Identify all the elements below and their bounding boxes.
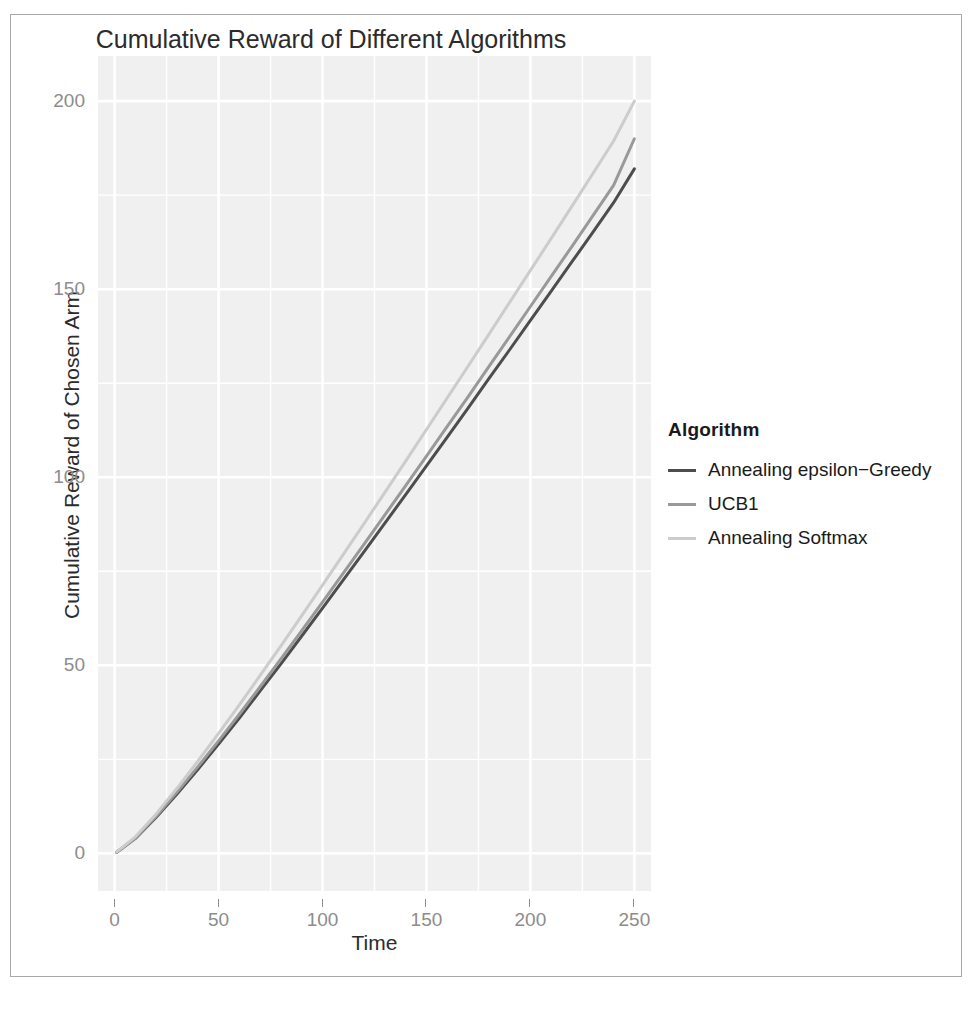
x-tick-mark: [425, 899, 426, 907]
legend-item[interactable]: UCB1: [668, 487, 948, 521]
y-tick: 200: [25, 91, 85, 110]
y-axis-title: Cumulative Reward of Chosen Arm: [60, 55, 84, 855]
x-tick-label: 100: [293, 909, 353, 931]
y-tick: 150: [25, 279, 85, 298]
legend: Algorithm Annealing epsilon−GreedyUCB1An…: [668, 419, 948, 555]
x-tick-mark: [322, 899, 323, 907]
x-tick-label: 0: [85, 909, 145, 931]
x-axis-title: Time: [98, 931, 651, 955]
legend-item-label: Annealing epsilon−Greedy: [708, 459, 931, 481]
y-tick: 50: [25, 655, 85, 674]
legend-items: Annealing epsilon−GreedyUCB1Annealing So…: [668, 453, 948, 555]
x-tick: 0: [85, 899, 145, 923]
y-tick-label: 200: [25, 91, 85, 110]
plot-panel: [98, 56, 651, 891]
legend-line-icon: [668, 487, 696, 521]
gridlines-minor: [98, 56, 651, 891]
legend-item[interactable]: Annealing epsilon−Greedy: [668, 453, 948, 487]
series-line: [117, 139, 635, 853]
y-tick-label: 0: [25, 843, 85, 862]
legend-item[interactable]: Annealing Softmax: [668, 521, 948, 555]
x-tick: 50: [189, 899, 249, 923]
y-tick: 100: [25, 467, 85, 486]
legend-title: Algorithm: [668, 419, 948, 441]
x-tick: 150: [396, 899, 456, 923]
legend-line-icon: [668, 453, 696, 487]
y-tick-label: 150: [25, 279, 85, 298]
legend-item-label: Annealing Softmax: [708, 527, 868, 549]
series-canvas: [98, 56, 651, 891]
x-tick-mark: [114, 899, 115, 907]
x-tick-mark: [218, 899, 219, 907]
x-tick-label: 200: [500, 909, 560, 931]
legend-line-icon: [668, 521, 696, 555]
x-tick: 100: [293, 899, 353, 923]
x-tick-label: 50: [189, 909, 249, 931]
figure-frame: Cumulative Reward of Different Algorithm…: [10, 14, 962, 977]
y-tick: 0: [25, 843, 85, 862]
plot-area: Cumulative Reward of Different Algorithm…: [11, 15, 961, 976]
chart-title: Cumulative Reward of Different Algorithm…: [11, 25, 651, 54]
x-tick-label: 250: [604, 909, 664, 931]
x-tick: 200: [500, 899, 560, 923]
legend-item-label: UCB1: [708, 493, 759, 515]
x-tick: 250: [604, 899, 664, 923]
x-tick-label: 150: [396, 909, 456, 931]
y-tick-label: 100: [25, 467, 85, 486]
x-tick-mark: [529, 899, 530, 907]
x-tick-mark: [633, 899, 634, 907]
y-tick-label: 50: [25, 655, 85, 674]
series-line: [117, 169, 635, 852]
